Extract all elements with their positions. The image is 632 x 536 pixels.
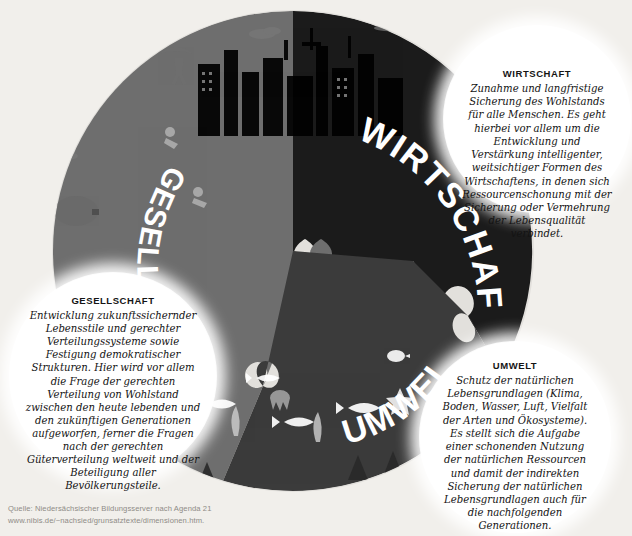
callout-gesellschaft-title: GESELLSCHAFT [71, 295, 154, 306]
callout-gesellschaft: GESELLSCHAFT Entwicklung zukunftssichern… [10, 273, 216, 479]
source-citation: Quelle: Niedersächsischer Bildungsserver… [8, 503, 338, 527]
source-line-2: www.nibis.de/~nachsied/grunsatztexte/dim… [8, 515, 338, 527]
source-line-1: Quelle: Niedersächsischer Bildungsserver… [8, 503, 338, 515]
callout-wirtschaft: WIRTSCHAFT Zunahme und langfristige Sich… [444, 26, 630, 212]
infographic-stage: WIRTSCHAFT GESELLSCHAFT UMWELT WIRTSCHAF… [0, 0, 632, 536]
callout-umwelt-body: Schutz der natürlichen Lebensgrundlagen … [436, 374, 594, 533]
callout-wirtschaft-title: WIRTSCHAFT [503, 68, 571, 79]
callout-wirtschaft-body: Zunahme und langfristige Sicherung des W… [461, 82, 613, 241]
callout-umwelt: UMWELT Schutz der natürlichen Lebensgrun… [420, 342, 610, 532]
callout-umwelt-title: UMWELT [493, 360, 537, 371]
walking-person-icon [64, 67, 79, 120]
airplane-icon [374, 19, 406, 31]
jellyfish-icon [270, 390, 290, 411]
callout-gesellschaft-body: Entwicklung zukunftssichernder Lebenssti… [24, 309, 202, 493]
